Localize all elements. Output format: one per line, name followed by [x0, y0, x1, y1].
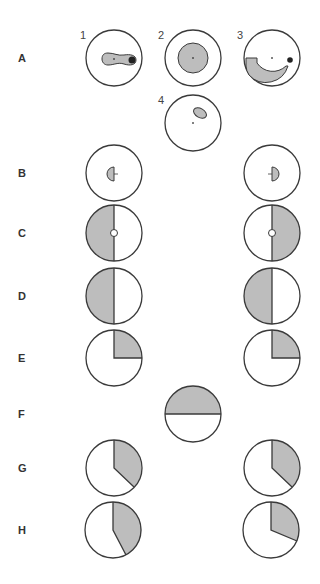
panel-number-4: 4: [158, 94, 164, 106]
row-label-A: A: [18, 52, 26, 64]
field-C-right: [244, 205, 300, 261]
field-A2: [165, 30, 221, 86]
field-H-left: [85, 502, 141, 558]
field-D-left: [86, 268, 142, 324]
field-B-left: [86, 145, 142, 201]
field-A1: [86, 30, 142, 86]
row-label-E: E: [18, 352, 25, 364]
field-E-right: [244, 330, 300, 386]
row-label-H: H: [18, 524, 26, 536]
panel-number-2: 2: [158, 29, 164, 41]
field-E-left: [86, 330, 142, 386]
visual-field-figure: [0, 0, 320, 584]
row-label-G: G: [18, 462, 27, 474]
field-G-left: [86, 440, 142, 496]
row-label-B: B: [18, 167, 26, 179]
field-A3: [244, 30, 300, 86]
panel-number-3: 3: [237, 29, 243, 41]
field-D-right: [244, 268, 300, 324]
row-label-F: F: [18, 408, 25, 420]
row-label-D: D: [18, 290, 26, 302]
field-H-right: [243, 502, 299, 558]
field-G-right: [244, 440, 300, 496]
field-A4: [165, 95, 221, 151]
panel-number-1: 1: [80, 29, 86, 41]
row-label-C: C: [18, 227, 26, 239]
field-C-left: [86, 205, 142, 261]
field-F: [165, 386, 221, 442]
field-B-right: [244, 145, 300, 201]
